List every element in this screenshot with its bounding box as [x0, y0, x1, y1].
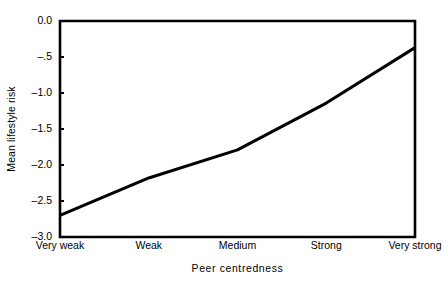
y-axis-tick-label-0: 0.0 [12, 15, 52, 26]
y-axis-tick-label-3: –1.5 [12, 123, 52, 134]
x-axis-tick-label-1: Weak [99, 240, 199, 251]
y-axis-tick-label-4: –2.0 [12, 159, 52, 170]
y-axis-tick-label-1: –.5 [12, 51, 52, 62]
x-axis-tick-label-4: Very strong [365, 240, 448, 251]
x-axis-tick-label-2: Medium [188, 240, 288, 251]
chart-figure: Mean lifestyle risk Peer centredness 0.0… [0, 0, 448, 286]
x-axis-tick-label-0: Very weak [10, 240, 110, 251]
x-axis-title-text: Peer centredness [60, 262, 415, 274]
y-axis-tick-label-2: –1.0 [12, 87, 52, 98]
x-axis-tick-label-3: Strong [276, 240, 376, 251]
y-axis-tick-label-5: –2.5 [12, 195, 52, 206]
